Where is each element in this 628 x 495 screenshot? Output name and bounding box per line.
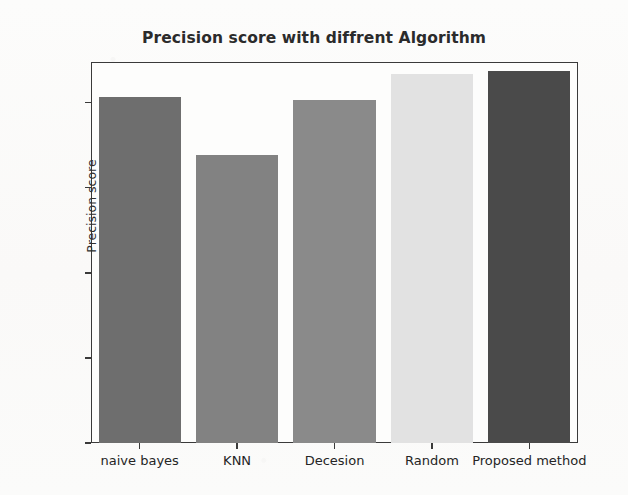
bar-proposed-method — [488, 71, 570, 443]
bar-knn — [196, 155, 278, 443]
x-tick-mark — [431, 443, 433, 449]
y-tick-mark — [85, 102, 91, 104]
x-tick-mark — [334, 443, 336, 449]
x-tick-mark — [529, 443, 531, 449]
x-tick-label-proposed-method: Proposed method — [472, 453, 586, 468]
x-tick-label-random: Random — [405, 453, 459, 468]
y-tick-mark — [85, 357, 91, 359]
bars-layer — [91, 62, 578, 443]
bar-naive-bayes — [99, 97, 181, 443]
chart-title: Precision score with diffrent Algorithm — [0, 29, 628, 47]
bar-decesion — [293, 100, 375, 443]
y-tick-mark — [85, 187, 91, 189]
y-axis-label: Precision score — [84, 106, 99, 306]
figure-canvas: Precision score with diffrent Algorithm … — [0, 0, 628, 495]
x-tick-label-decesion: Decesion — [305, 453, 365, 468]
x-tick-label-knn: KNN — [223, 453, 251, 468]
y-tick-mark — [85, 442, 91, 444]
x-tick-mark — [139, 443, 141, 449]
x-tick-label-naive-bayes: naive bayes — [101, 453, 179, 468]
bar-random — [391, 74, 473, 444]
y-tick-mark — [85, 272, 91, 274]
x-tick-mark — [236, 443, 238, 449]
